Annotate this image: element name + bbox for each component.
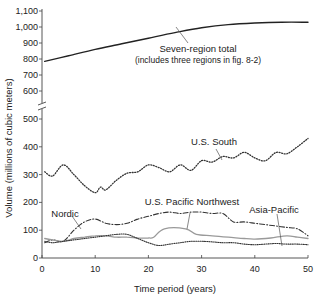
leader-total	[176, 27, 188, 43]
label-us-pacific-northwest: U.S. Pacific Northwest	[145, 196, 240, 207]
x-axis-title: Time period (years)	[134, 283, 216, 294]
volume-line-chart: 01002003004005006007008009001,0001,10001…	[0, 0, 316, 296]
series-u-s-pacific-northwest	[45, 228, 308, 241]
leader-us-pnw	[187, 213, 190, 229]
y-tick-label: 500	[23, 114, 38, 124]
label-asia-pacific: Asia-Pacific	[249, 204, 299, 215]
y-axis-title: Volume (millions of cubic meters)	[3, 78, 14, 217]
y-tick-label: 300	[23, 170, 38, 180]
y-tick-label: 1,100	[15, 6, 38, 16]
x-tick-label: 0	[39, 264, 44, 274]
x-tick-label: 40	[250, 264, 260, 274]
label-seven-region-total-sub: (includes three regions in fig. 8-2)	[135, 55, 261, 65]
y-tick-label: 200	[23, 197, 38, 207]
x-tick-label: 10	[90, 264, 100, 274]
label-nordic: Nordic	[51, 208, 79, 219]
series-asia-pacific	[45, 234, 308, 246]
y-tick-label: 600	[23, 86, 38, 96]
y-tick-label: 900	[23, 38, 38, 48]
x-tick-label: 20	[143, 264, 153, 274]
series-u-s-south	[45, 139, 308, 193]
y-tick-label: 700	[23, 70, 38, 80]
x-tick-label: 30	[197, 264, 207, 274]
x-tick-label: 50	[303, 264, 313, 274]
y-tick-label: 400	[23, 142, 38, 152]
y-tick-label: 1,000	[15, 22, 38, 32]
leader-asia-pacific	[277, 214, 282, 246]
y-tick-label: 800	[23, 54, 38, 64]
y-tick-label: 100	[23, 225, 38, 235]
y-tick-label: 0	[33, 253, 38, 263]
annotations: Seven-region total (includes three regio…	[3, 27, 299, 294]
label-us-south: U.S. South	[191, 136, 237, 147]
label-seven-region-total: Seven-region total	[159, 43, 236, 54]
